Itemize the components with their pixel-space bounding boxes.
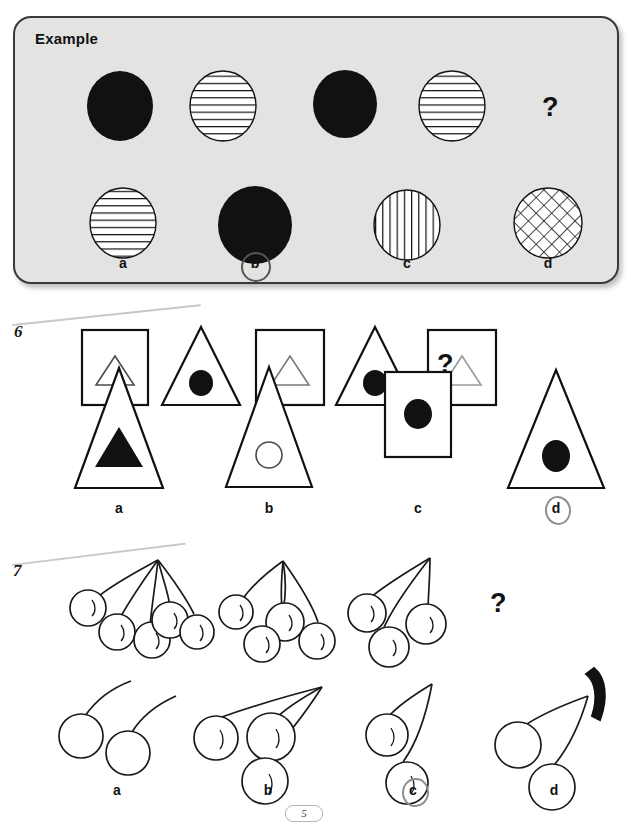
example-opt-circle-d[interactable] bbox=[514, 188, 582, 258]
q7-option-label-a[interactable]: a bbox=[102, 782, 132, 798]
example-seq-circle-1 bbox=[87, 71, 153, 141]
q6-option-shape-c[interactable] bbox=[385, 372, 451, 457]
example-option-label-a[interactable]: a bbox=[108, 255, 138, 271]
q7-option-shape-a[interactable] bbox=[59, 681, 176, 775]
question7-figures bbox=[0, 548, 631, 808]
example-option-label-d[interactable]: d bbox=[533, 255, 563, 271]
example-figures bbox=[15, 18, 617, 278]
example-seq-circle-2 bbox=[190, 71, 256, 141]
example-option-label-c[interactable]: c bbox=[392, 255, 422, 271]
example-opt-circle-a[interactable] bbox=[90, 188, 156, 258]
page-number: 5 bbox=[285, 805, 323, 822]
example-seq-circle-4 bbox=[419, 71, 485, 141]
question6-question-mark: ? bbox=[437, 349, 454, 380]
q7-option-d-black-stem-cap bbox=[586, 668, 605, 720]
q7-seq-cluster-5 bbox=[70, 560, 214, 658]
example-selected-answer-ring bbox=[241, 252, 271, 282]
q6-option-label-a[interactable]: a bbox=[104, 500, 134, 516]
question6-pencil-mark bbox=[12, 304, 201, 326]
q7-option-label-b[interactable]: b bbox=[253, 782, 283, 798]
q6-option-label-b[interactable]: b bbox=[254, 500, 284, 516]
q7-option-label-d[interactable]: d bbox=[539, 782, 569, 798]
worksheet-page: Example bbox=[0, 0, 631, 826]
q7-seq-cluster-3 bbox=[348, 558, 446, 667]
example-seq-circle-3 bbox=[313, 70, 377, 138]
q6-seq-item-2 bbox=[162, 327, 240, 405]
example-opt-circle-c[interactable] bbox=[374, 190, 440, 260]
q7-seq-cluster-4 bbox=[219, 561, 335, 662]
q6-option-shape-d[interactable] bbox=[508, 370, 604, 488]
example-box: Example bbox=[13, 16, 619, 284]
example-question-mark: ? bbox=[542, 92, 559, 123]
q6-option-label-c[interactable]: c bbox=[403, 500, 433, 516]
question7-question-mark: ? bbox=[490, 588, 507, 619]
question6-figures bbox=[0, 325, 631, 525]
